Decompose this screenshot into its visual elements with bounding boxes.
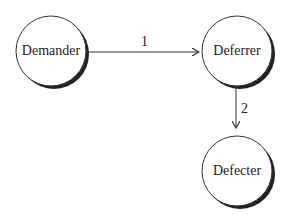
edge-label-1: 1 — [141, 34, 148, 50]
node-defecter: Defecter — [202, 136, 272, 206]
edge-label-2: 2 — [241, 101, 248, 117]
node-deferrer: Deferrer — [202, 16, 272, 86]
node-demander: Demander — [16, 16, 86, 86]
